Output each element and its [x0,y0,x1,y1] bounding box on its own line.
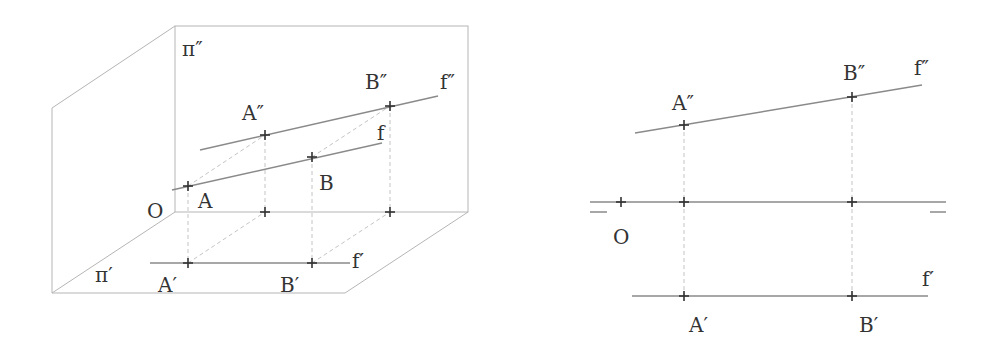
point-B [307,152,317,162]
point-B1 [307,258,317,268]
label-B1: B′ [859,313,879,337]
point-axis-B [847,197,857,207]
right-monge-figure: B″ f″ A″ O f′ A′ B′ [590,56,946,337]
label-f: f [377,121,386,145]
label-origin: O [147,199,163,223]
label-origin: O [613,225,629,249]
label-f2: f″ [914,56,929,80]
label-f2: f″ [440,70,455,94]
label-pi2: π″ [182,37,203,61]
label-A2: A″ [241,101,264,125]
point-markers-right [616,92,857,301]
horizontal-plane-pi1 [52,212,468,293]
label-B: B [319,171,334,195]
point-A1 [679,291,689,301]
line-f2 [200,96,438,150]
point-markers [183,101,395,268]
point-A2 [679,120,689,130]
point-B1 [847,291,857,301]
label-B2: B″ [365,70,387,94]
label-A: A [197,189,213,213]
label-f1: f′ [922,267,934,291]
diagram-canvas: π″ B″ f″ A″ f B A O f′ π′ A′ B′ [0,0,991,360]
point-A [183,181,193,191]
point-origin [616,197,626,207]
point-axis-B [385,207,395,217]
label-A1: A′ [157,273,177,297]
point-axis-A [679,197,689,207]
line-f [172,143,382,190]
label-f1: f′ [352,249,364,273]
label-A2: A″ [671,91,694,115]
point-A2 [260,130,270,140]
point-A1 [183,258,193,268]
label-B2: B″ [843,61,865,85]
label-B1: B′ [280,273,300,297]
label-A1: A′ [688,313,708,337]
point-axis-A [260,207,270,217]
point-B2 [847,92,857,102]
left-3d-figure: π″ B″ f″ A″ f B A O f′ π′ A′ B′ [52,26,468,297]
label-pi1: π′ [95,263,113,287]
point-B2 [385,101,395,111]
